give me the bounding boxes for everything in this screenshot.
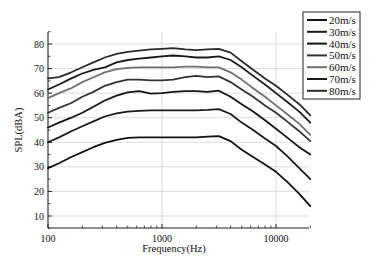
x-tick-label: 10000 xyxy=(264,233,289,244)
y-tick-label: 70 xyxy=(34,63,44,74)
spl-frequency-chart: 1020304050607080100100010000 Frequency(H… xyxy=(0,0,377,267)
legend-label: 70m/s xyxy=(329,73,356,85)
legend-label: 50m/s xyxy=(329,49,356,61)
data-series xyxy=(48,48,310,206)
x-axis-label: Frequency(Hz) xyxy=(142,243,206,255)
legend-label: 30m/s xyxy=(329,26,356,38)
y-tick-label: 40 xyxy=(34,137,44,148)
legend-label: 20m/s xyxy=(329,14,356,26)
y-tick-label: 10 xyxy=(34,211,44,222)
y-tick-label: 60 xyxy=(34,88,44,99)
legend-label: 60m/s xyxy=(329,61,356,73)
y-tick-label: 50 xyxy=(34,112,44,123)
y-tick-label: 80 xyxy=(34,39,44,50)
y-tick-label: 30 xyxy=(34,161,44,172)
series-line-20m-s xyxy=(48,136,310,206)
series-line-80m-s xyxy=(48,48,310,115)
series-line-50m-s xyxy=(48,76,310,141)
series-line-40m-s xyxy=(48,91,310,155)
y-axis-label: SPL(dBA) xyxy=(13,107,25,152)
legend: 20m/s30m/s40m/s50m/s60m/s70m/s80m/s xyxy=(303,12,360,99)
legend-label: 80m/s xyxy=(329,85,356,97)
legend-label: 40m/s xyxy=(329,38,356,50)
grid-lines xyxy=(48,32,309,228)
y-tick-label: 20 xyxy=(34,186,44,197)
x-tick-label: 100 xyxy=(41,233,56,244)
